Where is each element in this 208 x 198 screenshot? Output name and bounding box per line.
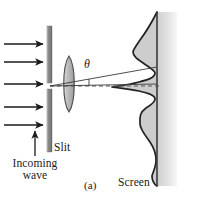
angle-theta-label: θ <box>84 58 90 71</box>
panel-label: (a) <box>84 180 97 192</box>
slit-label: Slit <box>54 141 70 153</box>
converging-lens <box>64 56 75 112</box>
screen-label: Screen <box>118 176 150 188</box>
barrier-lower-bar <box>47 89 52 152</box>
incoming-wave-arrows <box>4 44 43 125</box>
slit-barrier <box>47 26 52 152</box>
barrier-upper-bar <box>47 26 52 83</box>
screen-band <box>157 12 177 186</box>
incoming-wave-label: Incoming wave <box>3 157 67 182</box>
intensity-fill <box>112 12 157 186</box>
